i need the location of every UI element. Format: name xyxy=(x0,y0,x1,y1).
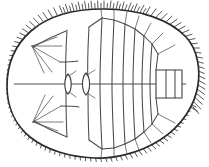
lens-right xyxy=(83,73,90,95)
lens-left xyxy=(65,74,71,94)
telson-body xyxy=(156,70,182,98)
terminal-plate xyxy=(156,70,182,98)
arthropod-dorsal-drawing: Dorsal view line drawing of a fringed se… xyxy=(0,0,209,167)
figure-root: Dorsal view line drawing of a fringed se… xyxy=(0,0,209,167)
